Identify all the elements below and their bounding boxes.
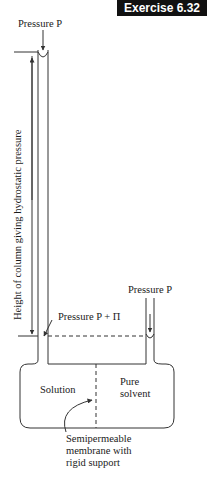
right-meniscus [146,334,154,338]
pressure-right-label: Pressure P [128,284,172,296]
solution-label: Solution [40,384,76,396]
membrane-label-1: Semipermeable [66,433,131,445]
osmosis-apparatus-diagram [0,0,207,485]
pressure-mid-label: Pressure P + Π [58,311,120,323]
column-height-label: Height of column giving hydrostatic pres… [12,130,23,320]
membrane-label-3: rigid support [66,457,120,469]
pressure-top-label: Pressure P [18,18,62,30]
membrane-label-2: membrane with [66,445,132,457]
left-meniscus [38,52,48,57]
membrane-pointer-arrow [64,400,92,432]
pure-solvent-label-1: Pure [120,376,139,388]
pure-solvent-label-2: solvent [120,388,150,400]
